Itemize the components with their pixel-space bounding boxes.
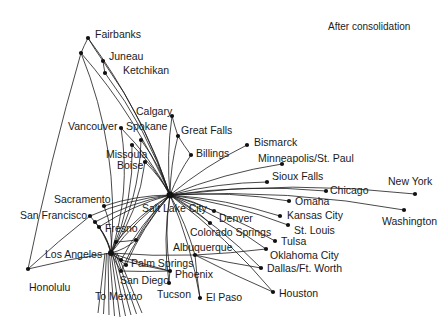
city-label-washington: Washington <box>382 216 437 227</box>
city-node-albuquerque <box>193 253 197 257</box>
city-node-anchorage <box>79 51 83 55</box>
city-node-spokane <box>139 138 143 142</box>
city-label-tomexico: To Mexico <box>95 291 142 302</box>
city-label-tulsa: Tulsa <box>281 236 306 247</box>
city-label-coloradosprings: Colorado Springs <box>190 227 271 238</box>
city-node-oklahomacity <box>264 247 268 251</box>
city-label-houston: Houston <box>279 288 318 299</box>
city-label-losangeles: Los Angeles <box>45 249 102 260</box>
route-line <box>172 116 178 136</box>
mexico-route-stub <box>108 253 109 315</box>
route-line <box>195 255 261 268</box>
city-label-newyork: New York <box>388 176 432 187</box>
city-node-elpaso <box>198 296 202 300</box>
city-node-houston <box>271 290 275 294</box>
city-node-bismarck <box>245 143 249 147</box>
city-node-siouxfalls <box>265 180 269 184</box>
city-node-sanjose <box>97 225 101 229</box>
city-node-fresno2 <box>134 238 138 242</box>
city-label-salt-lake-city: Salt Lake City <box>142 203 207 214</box>
city-label-tucson: Tucson <box>157 289 191 300</box>
city-label-juneau: Juneau <box>109 51 143 62</box>
city-node-newyork <box>413 192 417 196</box>
city-node-stlouis <box>286 223 290 227</box>
route-line <box>170 164 282 195</box>
city-node-juneau <box>101 59 105 63</box>
route-line <box>88 38 103 61</box>
city-label-phoenix: Phoenix <box>175 269 213 280</box>
city-node-chicago <box>324 189 328 193</box>
city-node-ketchikan <box>103 71 107 75</box>
city-label-billings: Billings <box>196 148 229 159</box>
city-label-sandiego: San Diego <box>120 275 169 286</box>
city-label-albuquerque: Albuquerque <box>173 242 233 253</box>
city-label-denver: Denver <box>219 213 253 224</box>
city-label-sacramento: Sacramento <box>54 194 111 205</box>
route-line <box>178 136 191 155</box>
city-node-phoenix <box>168 269 172 273</box>
hub-node-los-angeles <box>108 250 114 256</box>
city-node-boise <box>143 160 147 164</box>
city-node-missoula <box>130 143 134 147</box>
city-label-fairbanks: Fairbanks <box>95 29 141 40</box>
route-line <box>111 162 145 253</box>
city-node-kansascity <box>278 214 282 218</box>
city-node-washington <box>402 208 406 212</box>
city-label-ketchikan: Ketchikan <box>123 65 169 76</box>
city-label-calgary: Calgary <box>136 106 172 117</box>
city-node-sanfrancisco <box>88 214 92 218</box>
city-label-oklahomacity: Oklahoma City <box>270 250 339 261</box>
city-node-sandiego <box>119 269 123 273</box>
city-node-billings <box>189 153 193 157</box>
city-label-chicago: Chicago <box>330 185 369 196</box>
city-label-sanfrancisco: San Francisco <box>20 210 87 221</box>
city-label-bismarck: Bismarck <box>254 137 297 148</box>
city-node-dallas <box>259 266 263 270</box>
hub-node-salt-lake-city <box>167 192 174 199</box>
city-node-omaha <box>287 199 291 203</box>
city-label-greatfalls: Great Falls <box>181 125 232 136</box>
city-label-omaha: Omaha <box>295 196 329 207</box>
city-label-spokane: Spokane <box>126 121 167 132</box>
city-node-palmsprings <box>119 258 123 262</box>
city-node-honolulu <box>26 267 30 271</box>
city-node-fairbanks <box>86 36 90 40</box>
city-label-minneapolis: Minneapolis/St. Paul <box>258 153 354 164</box>
city-label-dallas: Dallas/Ft. Worth <box>267 263 342 274</box>
city-label-kansascity: Kansas City <box>287 210 343 221</box>
city-label-palmsprings: Palm Springs <box>131 258 193 269</box>
route-line <box>28 53 81 269</box>
city-label-boise: Boise <box>117 160 143 171</box>
city-node-fresno <box>114 240 118 244</box>
route-lines <box>28 38 415 317</box>
city-node-tulsa <box>273 239 277 243</box>
city-node-oakland <box>93 220 97 224</box>
city-label-stlouis: St. Louis <box>294 225 335 236</box>
city-node-vancouver <box>119 126 123 130</box>
city-node-denver <box>212 209 216 213</box>
city-label-elpaso: El Paso <box>206 292 242 303</box>
diagram-title: After consolidation <box>328 21 410 32</box>
city-label-honolulu: Honolulu <box>29 282 70 293</box>
city-node-greatfalls <box>176 134 180 138</box>
city-nodes <box>26 36 417 300</box>
city-label-siouxfalls: Sioux Falls <box>272 171 323 182</box>
city-label-vancouver: Vancouver <box>68 121 117 132</box>
city-label-missoula: Missoula <box>106 149 147 160</box>
city-label-fresno: Fresno <box>105 223 138 234</box>
route-line <box>81 38 88 53</box>
city-node-coloradosprings <box>208 221 212 225</box>
city-node-ontario <box>124 263 128 267</box>
